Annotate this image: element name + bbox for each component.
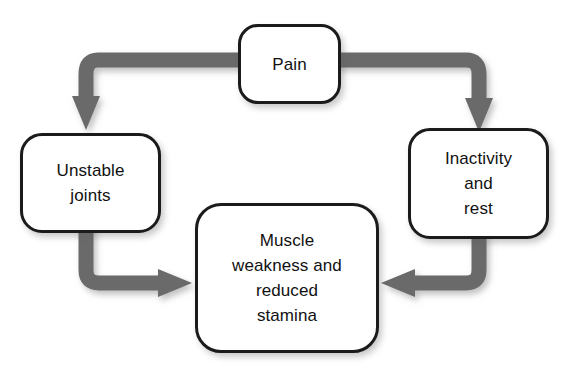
node-unstable-joints[interactable]: Unstable joints [20,133,161,233]
figure-caption [8,366,308,380]
node-inactivity-and-rest-label: Inactivity and rest [439,146,518,221]
node-pain-label: Pain [266,52,312,77]
node-unstable-joints-label: Unstable joints [51,158,131,208]
node-inactivity-and-rest[interactable]: Inactivity and rest [408,128,549,239]
figure-canvas: Pain Unstable joints Inactivity and rest… [0,0,574,382]
edge-unstable-to-muscle [86,224,192,297]
node-pain[interactable]: Pain [238,24,341,104]
node-muscle-weakness-label: Muscle weakness and reduced stamina [226,228,348,328]
node-muscle-weakness[interactable]: Muscle weakness and reduced stamina [195,203,379,353]
edge-inactive-to-muscle [381,232,479,297]
